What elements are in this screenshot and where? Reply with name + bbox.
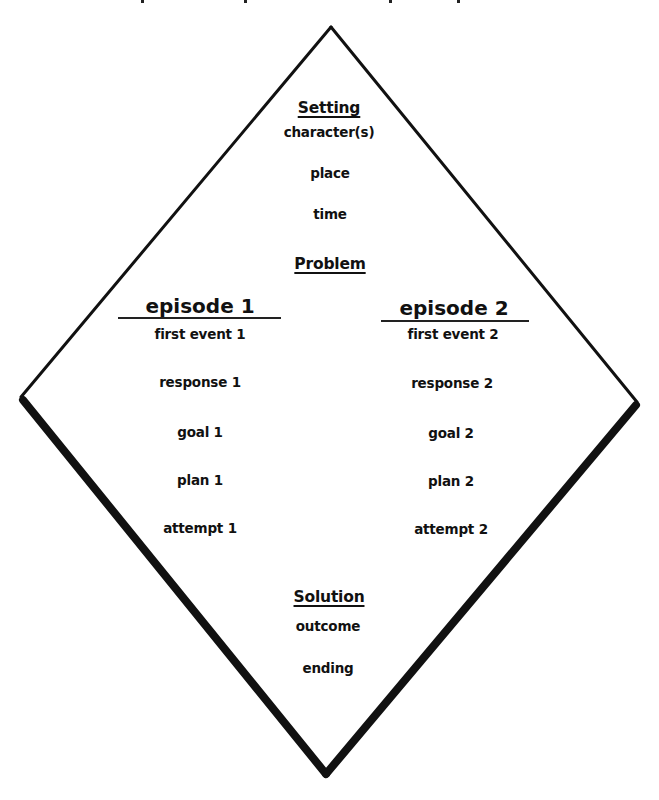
- diamond-edge-top-right: [331, 27, 637, 402]
- episode-1-title: episode 1: [145, 294, 254, 318]
- setting-item-place: place: [310, 165, 350, 181]
- episode-2-item-plan: plan 2: [428, 473, 474, 489]
- setting-heading: Setting: [298, 99, 361, 117]
- diamond-edge-bottom-right: [326, 405, 636, 774]
- solution-heading: Solution: [294, 588, 365, 606]
- problem-heading: Problem: [294, 255, 365, 273]
- episode-2-title: episode 2: [399, 296, 508, 320]
- diamond-outline: [0, 0, 659, 800]
- episode-1-item-first-event: first event 1: [154, 326, 245, 342]
- episode-1-item-goal: goal 1: [177, 424, 223, 440]
- episode-1-rule: [118, 317, 281, 319]
- solution-item-outcome: outcome: [296, 618, 360, 634]
- diamond-edge-bottom-left: [23, 400, 326, 774]
- setting-item-time: time: [313, 206, 347, 222]
- episode-1-item-attempt: attempt 1: [163, 520, 237, 536]
- solution-item-ending: ending: [302, 660, 353, 676]
- episode-1-item-plan: plan 1: [177, 472, 223, 488]
- episode-2-item-first-event: first event 2: [407, 326, 498, 342]
- episode-2-item-attempt: attempt 2: [414, 521, 488, 537]
- episode-1-item-response: response 1: [159, 374, 241, 390]
- episode-2-item-response: response 2: [411, 375, 493, 391]
- episode-2-item-goal: goal 2: [428, 425, 474, 441]
- episode-2-rule: [381, 320, 529, 322]
- setting-item-characters: character(s): [284, 124, 375, 140]
